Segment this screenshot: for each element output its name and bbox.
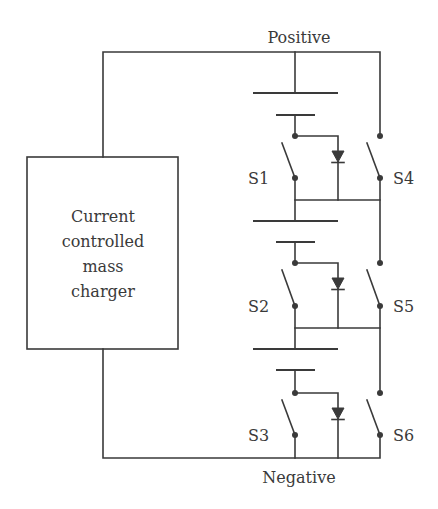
switch-s6-label: S6 bbox=[393, 426, 414, 445]
switch-s4[interactable] bbox=[367, 143, 383, 181]
stage-3: S3 S6 bbox=[248, 390, 414, 458]
circuit-diagram: Positive Negative Current controlled mas… bbox=[0, 0, 438, 509]
charger-label-line-4: charger bbox=[71, 282, 135, 301]
switch-s6[interactable] bbox=[367, 400, 383, 438]
charger-label-line-2: controlled bbox=[62, 232, 145, 251]
stage-1: S1 S4 bbox=[248, 133, 414, 263]
battery-cell-2 bbox=[253, 221, 338, 263]
positive-rail-label: Positive bbox=[267, 28, 330, 47]
diode-3-icon bbox=[332, 408, 344, 420]
switch-s1[interactable] bbox=[282, 143, 298, 181]
negative-rail-label: Negative bbox=[262, 468, 335, 487]
battery-cell-3 bbox=[253, 349, 338, 393]
switch-s5[interactable] bbox=[367, 270, 383, 309]
diode-1-icon bbox=[332, 151, 344, 163]
switch-s3[interactable] bbox=[282, 400, 298, 438]
charger-label-line-1: Current bbox=[71, 207, 136, 226]
switch-s1-label: S1 bbox=[248, 169, 269, 188]
mass-charger-box: Current controlled mass charger bbox=[27, 157, 178, 349]
charger-label-line-3: mass bbox=[82, 257, 123, 276]
switch-s2-label: S2 bbox=[248, 297, 269, 316]
switch-s2[interactable] bbox=[282, 270, 298, 309]
battery-cell-1 bbox=[253, 93, 338, 136]
stage-2: S2 S5 bbox=[248, 260, 414, 393]
diode-2-icon bbox=[332, 278, 344, 290]
switch-s3-label: S3 bbox=[248, 426, 269, 445]
switch-s5-label: S5 bbox=[393, 297, 414, 316]
switch-s4-label: S4 bbox=[393, 169, 414, 188]
